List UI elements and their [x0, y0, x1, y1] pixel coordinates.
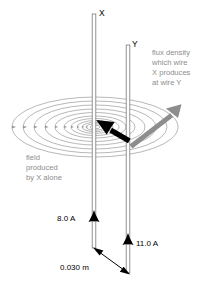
- field-tick-icon: [71, 126, 74, 128]
- separation-dimension: [93, 248, 130, 275]
- field-tick-icon: [45, 126, 49, 129]
- physics-diagram-canvas: X Y 8.0 A 11.0 A 0.030 m field produced …: [0, 0, 216, 282]
- field-tick-icon: [55, 126, 58, 128]
- wire-X-label: X: [99, 8, 105, 18]
- field-tick-icon: [77, 126, 80, 128]
- field-annotation-line: produced: [26, 163, 58, 172]
- current-label-Y: 11.0 A: [136, 239, 159, 248]
- field-annotation-line: field: [26, 153, 40, 162]
- diagram-svg: X Y 8.0 A 11.0 A 0.030 m field produced …: [0, 0, 216, 282]
- field-annotation-line: by X alone: [26, 173, 62, 182]
- flux-annotation-line: which wire: [151, 58, 187, 67]
- separation-label: 0.030 m: [60, 263, 89, 272]
- field-tick-icon: [23, 125, 27, 128]
- field-tick-icon: [64, 126, 67, 128]
- field-tick-icon: [82, 126, 85, 128]
- field-tick-icon: [34, 126, 38, 129]
- field-tick-icon: [86, 126, 88, 128]
- current-arrowhead-X-icon: [89, 210, 100, 222]
- field-tick-icon: [12, 125, 16, 128]
- flux-density-annotation: flux density which wire X produces at wi…: [151, 48, 191, 87]
- wire-Y-label: Y: [132, 39, 138, 49]
- flux-annotation-line: X produces: [152, 68, 191, 77]
- flux-annotation-line: flux density: [152, 48, 190, 57]
- flux-annotation-line: at wire Y: [152, 78, 181, 87]
- current-arrowhead-Y-icon: [123, 233, 134, 245]
- current-label-X: 8.0 A: [57, 214, 76, 223]
- field-annotation: field produced by X alone: [26, 153, 62, 182]
